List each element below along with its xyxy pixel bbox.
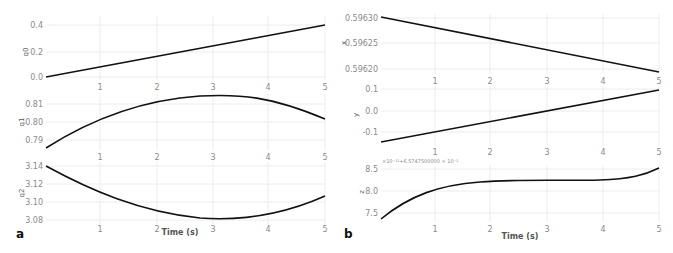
x-tick: 3 [544,225,549,234]
subplot-q0: 0.4 0.2 0.0 q0 1 2 3 4 5 [22,16,328,92]
y-tick: 8.0 [365,187,378,196]
series-q2 [46,166,325,219]
x-tick: 4 [265,153,270,162]
y-tick: 0.79 [25,136,43,145]
x-tick: 2 [487,148,492,157]
series-z [381,168,659,219]
y-tick: 0.80 [25,118,43,127]
series-q0 [46,25,325,77]
y-tick: 0.59630 [345,14,378,23]
y-tick: 0.0 [30,73,43,82]
figure: 0.4 0.2 0.0 q0 1 2 3 4 5 0.81 0.80 0.79 … [0,0,673,253]
x-tick: 5 [656,77,661,86]
y-tick: 0.0 [365,107,378,116]
x-tick: 3 [544,148,549,157]
x-axis-label: Time (s) [162,228,199,237]
subplot-x: 0.59630 0.59625 0.59620 x 1 2 3 4 5 [340,14,662,86]
y-axis-label: y [352,113,360,117]
panel-label-b: b [344,227,353,241]
x-tick: 2 [154,83,159,92]
y-axis-label: q0 [22,48,30,57]
y-tick: 3.08 [25,216,43,225]
subplot-z: ×10⁻¹¹+6.5747500000 × 10⁻¹ 8.5 8.0 7.5 z… [358,158,662,234]
x-axis-label: Time (s) [502,232,539,241]
subplot-q2: 3.14 3.12 3.10 3.08 q2 1 2 3 4 5 [18,162,328,234]
y-axis-label: q2 [18,189,26,198]
x-tick: 3 [544,77,549,86]
y-tick: 3.14 [25,162,43,171]
x-tick: 2 [487,77,492,86]
x-tick: 4 [265,83,270,92]
x-tick: 5 [322,83,327,92]
x-tick: 2 [154,153,159,162]
series-x [381,17,659,72]
x-tick: 2 [487,225,492,234]
y-tick: 0.1 [365,85,378,94]
x-tick: 3 [210,83,215,92]
subplot-y: 0.1 0.0 -0.1 y 1 2 3 4 5 [352,85,662,157]
series-y [381,90,659,142]
x-tick: 1 [97,225,102,234]
x-tick: 5 [322,153,327,162]
y-tick: 3.12 [25,180,43,189]
y-tick: 0.4 [30,21,43,30]
x-tick: 2 [154,225,159,234]
x-tick: 1 [432,225,437,234]
y-tick: 0.59620 [345,65,378,74]
x-tick: 4 [600,225,605,234]
z-offset-text: ×10⁻¹¹+6.5747500000 × 10⁻¹ [382,158,458,164]
y-axis-label: z [358,190,366,194]
x-tick: 3 [210,225,215,234]
y-tick: 8.5 [365,165,378,174]
y-tick: 7.5 [365,209,378,218]
x-tick: 4 [265,225,270,234]
y-tick: 0.81 [25,100,43,109]
subplot-q1: 0.81 0.80 0.79 q1 1 2 3 4 5 [18,94,328,162]
y-tick: -0.1 [362,128,378,137]
y-tick: 0.59625 [345,39,378,48]
y-axis-label: q1 [18,118,26,127]
y-axis-label: x [340,41,348,45]
y-tick: 3.10 [25,198,43,207]
x-tick: 3 [210,153,215,162]
x-tick: 1 [432,148,437,157]
y-tick: 0.2 [30,48,43,57]
panel-label-a: a [16,227,24,241]
x-tick: 4 [600,77,605,86]
x-tick: 5 [656,225,661,234]
x-tick: 1 [97,83,102,92]
x-tick: 4 [600,148,605,157]
x-tick: 5 [322,225,327,234]
x-tick: 1 [432,77,437,86]
x-tick: 1 [97,153,102,162]
x-tick: 5 [656,148,661,157]
